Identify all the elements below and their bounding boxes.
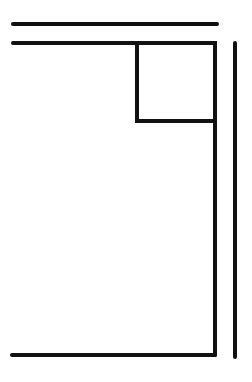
floor-plan-diagram	[0, 0, 252, 382]
